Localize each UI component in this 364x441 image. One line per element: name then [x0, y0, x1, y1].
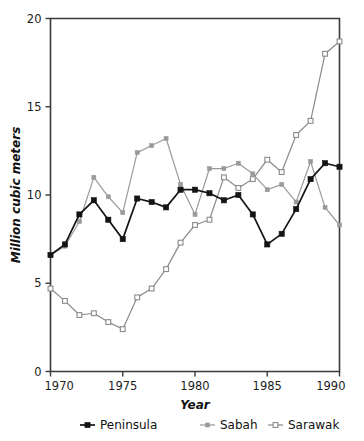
- x-tick-label: 1970: [45, 379, 74, 393]
- datapoint-sabah-1973: [92, 175, 96, 179]
- datapoint-sabah-1989: [323, 205, 327, 209]
- y-tick-label: 15: [27, 100, 42, 114]
- datapoint-peninsula-1986: [279, 231, 284, 236]
- datapoint-peninsula-1985: [265, 242, 270, 247]
- datapoint-sabah-1984: [251, 172, 255, 176]
- legend-item-sabah[interactable]: Sabah: [200, 418, 258, 432]
- datapoint-sarawak-1975: [120, 327, 125, 332]
- datapoint-sabah-1975: [121, 211, 125, 215]
- legend-item-peninsula[interactable]: Peninsula: [80, 418, 157, 432]
- x-tick-label: 1980: [180, 379, 209, 393]
- y-tick-label: 20: [27, 12, 42, 26]
- datapoint-sarawak-1988: [308, 118, 313, 123]
- y-axis-title: Million cubic meters: [9, 127, 23, 264]
- chart-legend: PeninsulaSabahSarawak: [80, 418, 339, 432]
- datapoint-sabah-1988: [309, 159, 313, 163]
- datapoint-sarawak-1977: [149, 286, 154, 291]
- datapoint-sabah-1972: [77, 219, 81, 223]
- legend-marker-sarawak: [273, 423, 278, 428]
- datapoint-peninsula-1989: [322, 161, 327, 166]
- datapoint-peninsula-1981: [207, 191, 212, 196]
- datapoint-sarawak-1980: [193, 223, 198, 228]
- datapoint-peninsula-1983: [236, 192, 241, 197]
- datapoint-sarawak-1982: [222, 175, 227, 180]
- x-axis-title: Year: [180, 398, 210, 412]
- datapoint-sarawak-1978: [164, 267, 169, 272]
- datapoint-sarawak-1970: [48, 286, 53, 291]
- datapoint-peninsula-1988: [308, 177, 313, 182]
- plot-frame: [51, 19, 340, 372]
- datapoint-sabah-1979: [179, 182, 183, 186]
- datapoint-peninsula-1974: [106, 217, 111, 222]
- series-line-sabah: [51, 139, 340, 255]
- datapoint-peninsula-1984: [250, 212, 255, 217]
- line-chart: 0510152019701975198019851990 YearMillion…: [0, 0, 364, 441]
- datapoint-sabah-1978: [164, 137, 168, 141]
- datapoint-peninsula-1973: [91, 198, 96, 203]
- datapoint-peninsula-1982: [221, 198, 226, 203]
- datapoint-sarawak-1983: [236, 186, 241, 191]
- datapoint-sarawak-1973: [91, 311, 96, 316]
- datapoint-peninsula-1975: [120, 237, 125, 242]
- datapoint-peninsula-1990: [337, 164, 342, 169]
- legend-label-sabah: Sabah: [220, 418, 258, 432]
- legend-marker-sabah: [206, 423, 210, 427]
- datapoint-sarawak-1974: [106, 320, 111, 325]
- x-tick-label: 1975: [108, 379, 137, 393]
- legend-marker-peninsula: [85, 422, 90, 427]
- datapoint-sabah-1990: [338, 223, 342, 227]
- x-tick-label: 1985: [253, 379, 282, 393]
- datapoint-sarawak-1987: [294, 133, 299, 138]
- legend-label-peninsula: Peninsula: [100, 418, 157, 432]
- chart-series: [48, 39, 342, 331]
- datapoint-peninsula-1979: [178, 187, 183, 192]
- y-tick-label: 0: [34, 365, 41, 379]
- datapoint-sarawak-1972: [77, 313, 82, 318]
- series-line-sarawak: [51, 41, 340, 329]
- datapoint-peninsula-1972: [77, 212, 82, 217]
- datapoint-sabah-1987: [294, 200, 298, 204]
- datapoint-sabah-1982: [222, 167, 226, 171]
- datapoint-peninsula-1971: [62, 242, 67, 247]
- datapoint-sabah-1976: [135, 151, 139, 155]
- datapoint-sarawak-1971: [63, 299, 68, 304]
- legend-label-sarawak: Sarawak: [288, 418, 339, 432]
- datapoint-sabah-1981: [207, 167, 211, 171]
- datapoint-sabah-1985: [265, 188, 269, 192]
- datapoint-sabah-1974: [106, 195, 110, 199]
- datapoint-peninsula-1980: [192, 187, 197, 192]
- datapoint-sarawak-1985: [265, 157, 270, 162]
- y-tick-label: 10: [27, 188, 42, 202]
- datapoint-sabah-1986: [280, 182, 284, 186]
- datapoint-sarawak-1976: [135, 295, 140, 300]
- x-tick-label: 1990: [316, 379, 345, 393]
- chart-axes: [51, 19, 340, 372]
- series-sarawak: [48, 39, 342, 331]
- datapoint-sarawak-1984: [250, 177, 255, 182]
- datapoint-sarawak-1981: [207, 217, 212, 222]
- datapoint-sarawak-1979: [178, 240, 183, 245]
- datapoint-sabah-1980: [193, 212, 197, 216]
- y-tick-label: 5: [34, 276, 41, 290]
- datapoint-peninsula-1976: [135, 196, 140, 201]
- legend-item-sarawak[interactable]: Sarawak: [268, 418, 339, 432]
- datapoint-sabah-1983: [236, 161, 240, 165]
- datapoint-peninsula-1970: [48, 252, 53, 257]
- datapoint-sarawak-1989: [323, 51, 328, 56]
- datapoint-peninsula-1978: [164, 205, 169, 210]
- chart-page: 0510152019701975198019851990 YearMillion…: [0, 0, 364, 441]
- series-sabah: [49, 137, 342, 257]
- datapoint-sarawak-1986: [279, 170, 284, 175]
- datapoint-peninsula-1987: [294, 207, 299, 212]
- datapoint-sabah-1977: [150, 144, 154, 148]
- datapoint-peninsula-1977: [149, 199, 154, 204]
- datapoint-sarawak-1990: [337, 39, 342, 44]
